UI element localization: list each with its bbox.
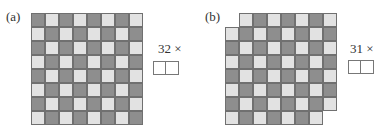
panel-b-answer-box bbox=[348, 60, 374, 74]
light-square bbox=[239, 41, 253, 55]
light-square bbox=[267, 13, 281, 27]
answer-slot-tens[interactable] bbox=[348, 60, 361, 74]
light-square bbox=[323, 97, 337, 111]
light-square bbox=[323, 69, 337, 83]
light-square bbox=[225, 27, 239, 41]
light-square bbox=[309, 55, 323, 69]
light-square bbox=[87, 111, 101, 125]
light-square bbox=[87, 27, 101, 41]
light-square bbox=[59, 83, 73, 97]
light-square bbox=[323, 13, 337, 27]
dark-square bbox=[309, 69, 323, 83]
light-square bbox=[281, 55, 295, 69]
light-square bbox=[31, 83, 45, 97]
light-square bbox=[295, 97, 309, 111]
dark-square bbox=[239, 83, 253, 97]
light-square bbox=[73, 97, 87, 111]
light-square bbox=[31, 111, 45, 125]
light-square bbox=[225, 111, 239, 125]
light-square bbox=[281, 111, 295, 125]
dark-square bbox=[59, 69, 73, 83]
dark-square bbox=[31, 13, 45, 27]
light-square bbox=[267, 41, 281, 55]
dark-square bbox=[31, 69, 45, 83]
dark-square bbox=[309, 97, 323, 111]
light-square bbox=[281, 27, 295, 41]
dark-square bbox=[129, 27, 143, 41]
dark-square bbox=[87, 41, 101, 55]
light-square bbox=[45, 41, 59, 55]
dark-square bbox=[239, 55, 253, 69]
answer-slot-ones[interactable] bbox=[166, 61, 179, 75]
dark-square bbox=[45, 27, 59, 41]
panel-a-multiplier-label: 32 × bbox=[158, 42, 182, 55]
dark-square bbox=[115, 97, 129, 111]
dark-square bbox=[323, 83, 337, 97]
dark-square bbox=[87, 69, 101, 83]
dark-square bbox=[59, 97, 73, 111]
light-square bbox=[87, 83, 101, 97]
answer-slot-tens[interactable] bbox=[153, 61, 166, 75]
light-square bbox=[101, 41, 115, 55]
dark-square bbox=[295, 83, 309, 97]
dark-square bbox=[295, 55, 309, 69]
light-square bbox=[239, 13, 253, 27]
dark-square bbox=[253, 97, 267, 111]
light-square bbox=[59, 111, 73, 125]
light-square bbox=[115, 111, 129, 125]
light-square bbox=[115, 55, 129, 69]
dark-square bbox=[267, 111, 281, 125]
panel-b-multiplier-label: 31 × bbox=[350, 42, 374, 55]
dark-square bbox=[295, 27, 309, 41]
dark-square bbox=[267, 83, 281, 97]
light-square bbox=[87, 55, 101, 69]
dark-square bbox=[59, 41, 73, 55]
light-square bbox=[253, 83, 267, 97]
dark-square bbox=[281, 41, 295, 55]
answer-slot-ones[interactable] bbox=[361, 60, 374, 74]
dark-square bbox=[281, 97, 295, 111]
dark-square bbox=[253, 41, 267, 55]
light-square bbox=[101, 13, 115, 27]
light-square bbox=[267, 97, 281, 111]
light-square bbox=[239, 97, 253, 111]
dark-square bbox=[45, 111, 59, 125]
dark-square bbox=[281, 13, 295, 27]
dark-square bbox=[115, 69, 129, 83]
dark-square bbox=[129, 55, 143, 69]
light-square bbox=[309, 83, 323, 97]
checkerboard-b bbox=[225, 13, 337, 125]
light-square bbox=[59, 55, 73, 69]
dark-square bbox=[309, 13, 323, 27]
panel-b-label: (b) bbox=[205, 10, 220, 23]
dark-square bbox=[267, 55, 281, 69]
dark-square bbox=[45, 55, 59, 69]
light-square bbox=[31, 27, 45, 41]
light-square bbox=[225, 83, 239, 97]
dark-square bbox=[31, 41, 45, 55]
light-square bbox=[309, 111, 323, 125]
light-square bbox=[129, 97, 143, 111]
dark-square bbox=[239, 111, 253, 125]
dark-square bbox=[129, 83, 143, 97]
light-square bbox=[239, 69, 253, 83]
light-square bbox=[31, 55, 45, 69]
light-square bbox=[59, 27, 73, 41]
dark-square bbox=[73, 83, 87, 97]
dark-square bbox=[253, 69, 267, 83]
light-square bbox=[225, 55, 239, 69]
light-square bbox=[295, 69, 309, 83]
dark-square bbox=[253, 13, 267, 27]
dark-square bbox=[31, 97, 45, 111]
dark-square bbox=[101, 55, 115, 69]
dark-square bbox=[267, 27, 281, 41]
light-square bbox=[73, 41, 87, 55]
panel-a-answer-box bbox=[153, 61, 179, 75]
dark-square bbox=[323, 55, 337, 69]
dark-square bbox=[115, 41, 129, 55]
light-square bbox=[73, 69, 87, 83]
light-square bbox=[129, 69, 143, 83]
dark-square bbox=[323, 27, 337, 41]
dark-square bbox=[45, 83, 59, 97]
light-square bbox=[253, 111, 267, 125]
